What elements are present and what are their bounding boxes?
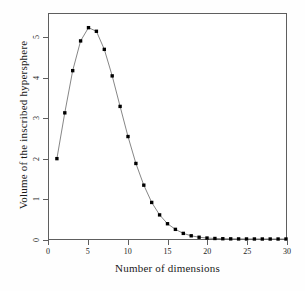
data-point (71, 69, 74, 72)
chart-figure: 051015202530 012345 Number of dimensions… (0, 0, 305, 291)
series-line (57, 28, 286, 239)
y-tick (43, 199, 48, 200)
data-point (142, 183, 145, 186)
data-point (182, 232, 185, 235)
y-tick-label: 4 (32, 73, 41, 83)
data-point (63, 111, 66, 114)
x-tick-label: 0 (46, 247, 50, 256)
data-point (229, 237, 232, 240)
data-point (95, 30, 98, 33)
x-tick-label: 30 (283, 247, 291, 256)
data-point (111, 74, 114, 77)
y-tick-label: 0 (32, 235, 41, 245)
data-layer (49, 14, 286, 239)
data-point (87, 26, 90, 29)
data-point (118, 105, 121, 108)
data-point (126, 135, 129, 138)
y-tick-label: 2 (32, 154, 41, 164)
y-tick (43, 37, 48, 38)
data-point (103, 48, 106, 51)
y-tick (43, 159, 48, 160)
x-axis-title: Number of dimensions (48, 262, 287, 274)
y-tick (43, 78, 48, 79)
x-tick-label: 15 (164, 247, 172, 256)
data-point (174, 228, 177, 231)
data-point (150, 201, 153, 204)
x-tick-label: 10 (124, 247, 132, 256)
data-point (237, 237, 240, 240)
y-tick (43, 240, 48, 241)
data-point (55, 157, 58, 160)
x-tick (168, 240, 169, 245)
data-point (269, 237, 272, 240)
data-point (190, 234, 193, 237)
x-tick (48, 240, 49, 245)
x-tick (287, 240, 288, 245)
x-tick-label: 25 (243, 247, 251, 256)
y-tick-label: 1 (32, 194, 41, 204)
data-point (261, 237, 264, 240)
x-tick (88, 240, 89, 245)
data-point (158, 213, 161, 216)
x-tick (247, 240, 248, 245)
data-point (79, 39, 82, 42)
plot-area (48, 13, 287, 240)
y-tick-label: 5 (32, 32, 41, 42)
data-point (134, 162, 137, 165)
x-tick-label: 20 (203, 247, 211, 256)
y-tick-label: 3 (32, 113, 41, 123)
series-markers (55, 26, 287, 241)
data-point (213, 237, 216, 240)
x-tick (128, 240, 129, 245)
y-tick (43, 118, 48, 119)
data-point (253, 237, 256, 240)
x-tick (207, 240, 208, 245)
data-point (276, 237, 279, 240)
data-point (221, 237, 224, 240)
data-point (166, 222, 169, 225)
x-tick-label: 5 (86, 247, 90, 256)
y-axis-title: Volume of the inscribed hypersphere (17, 10, 29, 240)
data-point (197, 236, 200, 239)
